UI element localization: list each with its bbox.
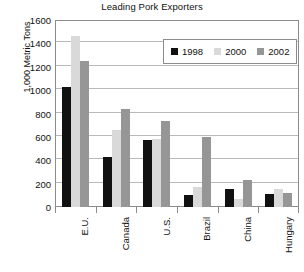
y-tick-label: 1000 <box>14 85 51 96</box>
y-tick-label: 1200 <box>14 61 51 72</box>
legend-label: 2002 <box>268 46 289 57</box>
bar-group <box>62 20 89 207</box>
bar[interactable] <box>112 130 121 207</box>
bar[interactable] <box>265 194 274 207</box>
bar-chart: Leading Pork Exporters 1,000 Metric Tons… <box>0 0 304 272</box>
bar-group <box>103 20 130 207</box>
x-tick-label: Canada <box>120 217 131 250</box>
y-tick-label: 0 <box>14 202 51 213</box>
bar[interactable] <box>161 121 170 207</box>
bar[interactable] <box>143 140 152 207</box>
y-axis-tick-labels: 02004006008001000120014001600 <box>14 20 51 207</box>
legend-swatch-icon <box>214 48 221 55</box>
bar[interactable] <box>121 109 130 207</box>
legend: 199820002002 <box>163 39 297 64</box>
x-tick-label: Brazil <box>201 217 212 241</box>
x-tick-label: U.S. <box>161 217 172 235</box>
chart-title: Leading Pork Exporters <box>0 1 304 12</box>
bar[interactable] <box>152 139 161 207</box>
bar[interactable] <box>234 199 243 207</box>
bar[interactable] <box>283 193 292 207</box>
y-tick-label: 400 <box>14 155 51 166</box>
bar[interactable] <box>103 157 112 207</box>
bar[interactable] <box>62 87 71 207</box>
legend-label: 2000 <box>225 46 246 57</box>
y-tick-label: 800 <box>14 108 51 119</box>
bar[interactable] <box>225 189 234 207</box>
bar[interactable] <box>243 180 252 207</box>
legend-label: 1998 <box>182 46 203 57</box>
y-tick-label: 200 <box>14 178 51 189</box>
y-tick-label: 600 <box>14 131 51 142</box>
y-tick-label: 1600 <box>14 15 51 26</box>
legend-entry[interactable]: 2000 <box>214 46 246 57</box>
y-tick-label: 1400 <box>14 38 51 49</box>
legend-entry[interactable]: 2002 <box>257 46 289 57</box>
bar[interactable] <box>202 137 211 207</box>
bar[interactable] <box>71 36 80 207</box>
legend-swatch-icon <box>171 48 178 55</box>
x-tick-label: China <box>242 217 253 242</box>
x-tick-label: E.U. <box>79 217 90 235</box>
legend-entry[interactable]: 1998 <box>171 46 203 57</box>
bar[interactable] <box>274 189 283 207</box>
bar[interactable] <box>193 187 202 207</box>
bar[interactable] <box>184 195 193 207</box>
x-axis-tick-labels: E.U.CanadaU.S.BrazilChinaHungary <box>55 213 299 271</box>
x-tick-label: Hungary <box>283 217 294 253</box>
bar[interactable] <box>80 61 89 207</box>
legend-swatch-icon <box>257 48 264 55</box>
